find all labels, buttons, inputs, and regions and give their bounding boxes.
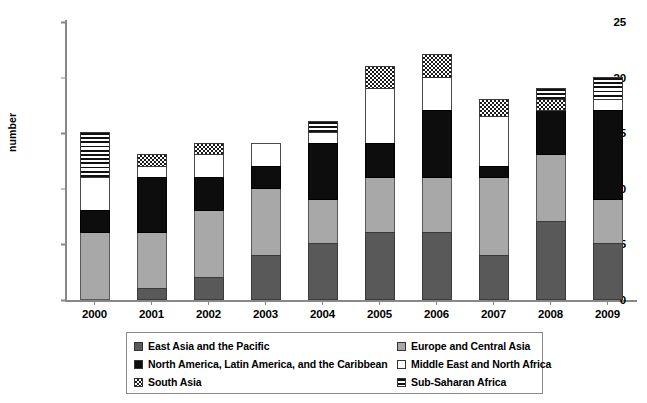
x-axis-tick	[550, 300, 552, 305]
legend-item-label: Middle East and North Africa	[411, 359, 551, 370]
bar-segment	[308, 143, 338, 200]
bar-segment	[365, 66, 395, 89]
stacked-bar	[194, 22, 224, 300]
bar-segment	[80, 232, 110, 300]
stacked-bar	[251, 22, 281, 300]
bar-segment	[422, 77, 452, 111]
y-axis-tick	[61, 77, 66, 79]
bar-segment	[593, 199, 623, 244]
bar-segment	[422, 54, 452, 77]
bar-segment	[422, 232, 452, 300]
x-axis-tick-label: 2000	[82, 308, 107, 320]
bar-group	[479, 22, 509, 300]
stacked-bar	[365, 22, 395, 300]
x-axis-tick-label: 2003	[253, 308, 278, 320]
x-axis-tick-label: 2008	[538, 308, 563, 320]
legend-item[interactable]: East Asia and the Pacific	[134, 337, 388, 355]
bar-segment	[137, 154, 167, 166]
legend-swatch-icon	[397, 378, 406, 387]
legend-swatch-icon	[397, 342, 406, 351]
x-axis-tick	[151, 300, 153, 305]
y-axis-tick	[61, 133, 66, 135]
legend-swatch-icon	[134, 342, 143, 351]
legend-item-label: Europe and Central Asia	[411, 341, 530, 352]
stacked-bar	[536, 22, 566, 300]
chart-legend: East Asia and the PacificNorth America, …	[126, 332, 543, 394]
bar-segment	[422, 110, 452, 178]
x-axis-tick	[493, 300, 495, 305]
bar-segment	[593, 243, 623, 300]
x-axis-tick	[379, 300, 381, 305]
bar-segment	[137, 288, 167, 300]
bar-segment	[308, 121, 338, 133]
y-axis-tick	[61, 22, 66, 24]
y-axis-tick	[61, 244, 66, 246]
bar-group	[365, 22, 395, 300]
bar-segment	[365, 177, 395, 234]
x-axis-tick-label: 2007	[481, 308, 506, 320]
legend-item[interactable]: Europe and Central Asia	[397, 337, 551, 355]
legend-swatch-icon	[397, 360, 406, 369]
bar-segment	[194, 277, 224, 300]
x-axis-tick	[607, 300, 609, 305]
stacked-bar	[593, 22, 623, 300]
bar-group	[194, 22, 224, 300]
bar-segment	[80, 132, 110, 177]
bar-segment	[479, 255, 509, 300]
bar-group	[80, 22, 110, 300]
bar-segment	[194, 154, 224, 177]
stacked-bar	[80, 22, 110, 300]
bar-segment	[251, 188, 281, 256]
stacked-bar	[479, 22, 509, 300]
bar-segment	[593, 110, 623, 200]
bar-group	[422, 22, 452, 300]
bar-segment	[479, 116, 509, 167]
stacked-bar	[308, 22, 338, 300]
x-axis-tick-label: 2009	[595, 308, 620, 320]
bar-group	[308, 22, 338, 300]
bar-segment	[536, 99, 566, 111]
legend-item[interactable]: South Asia	[134, 373, 388, 391]
legend-item-label: South Asia	[148, 377, 201, 388]
bar-segment	[80, 210, 110, 233]
bar-segment	[593, 77, 623, 100]
legend-item-label: East Asia and the Pacific	[148, 341, 269, 352]
legend-swatch-icon	[134, 360, 143, 369]
bar-group	[536, 22, 566, 300]
legend-item[interactable]: North America, Latin America, and the Ca…	[134, 355, 388, 373]
bar-segment	[137, 177, 167, 234]
bar-group	[593, 22, 623, 300]
bar-segment	[194, 143, 224, 155]
bar-segment	[365, 232, 395, 300]
bar-segment	[251, 166, 281, 189]
bar-segment	[422, 177, 452, 234]
x-axis-tick-label: 2004	[310, 308, 335, 320]
y-axis-tick	[61, 300, 66, 302]
bar-segment	[479, 166, 509, 178]
x-axis-tick	[322, 300, 324, 305]
legend-swatch-icon	[134, 378, 143, 387]
bar-segment	[308, 243, 338, 300]
bar-segment	[194, 210, 224, 278]
x-axis-tick-label: 2005	[367, 308, 392, 320]
bar-segment	[80, 177, 110, 211]
bar-segment	[251, 255, 281, 300]
bar-segment	[536, 154, 566, 222]
x-axis-tick	[208, 300, 210, 305]
x-axis-tick-label: 2002	[196, 308, 221, 320]
bar-segment	[137, 232, 167, 289]
bar-segment	[194, 177, 224, 211]
legend-item[interactable]: Sub-Saharan Africa	[397, 373, 551, 391]
stacked-bar	[422, 22, 452, 300]
stacked-bar	[137, 22, 167, 300]
x-axis-tick-label: 2006	[424, 308, 449, 320]
bar-group	[137, 22, 167, 300]
bar-segment	[479, 99, 509, 117]
stacked-bar-chart: number 051015202520002001200220032004200…	[0, 0, 647, 403]
legend-column-right: Europe and Central AsiaMiddle East and N…	[397, 337, 551, 391]
legend-item-label: Sub-Saharan Africa	[411, 377, 506, 388]
legend-item[interactable]: Middle East and North Africa	[397, 355, 551, 373]
legend-item-label: North America, Latin America, and the Ca…	[148, 359, 388, 370]
plot-area: 0510152025200020012002200320042005200620…	[66, 22, 636, 300]
y-axis-title: number	[6, 113, 18, 152]
